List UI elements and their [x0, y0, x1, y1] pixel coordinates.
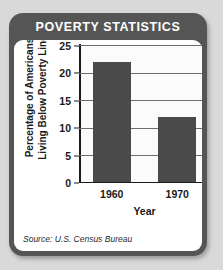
bar-chart: Percentage of Americans Living Below Pov…: [14, 40, 202, 223]
x-tick-label-1960: 1960: [100, 188, 123, 200]
source-note: Source: U.S. Census Bureau: [23, 234, 132, 244]
poverty-statistics-card: POVERTY STATISTICS Percentage of America…: [9, 13, 207, 256]
x-tick-label-1970: 1970: [166, 188, 189, 200]
y-axis-label: Percentage of Americans Living Below Pov…: [24, 40, 49, 168]
bar-1960: [93, 62, 131, 182]
y-tick-label-10: 10: [59, 122, 71, 134]
x-axis-label: Year: [79, 205, 202, 217]
y-axis-label-line-2: Living Below Poverty Line: [36, 40, 49, 168]
y-tick-label-15: 15: [59, 95, 71, 107]
card-header: POVERTY STATISTICS: [14, 13, 202, 40]
y-tick-label-5: 5: [65, 150, 71, 162]
y-tick-label-25: 25: [59, 40, 71, 52]
gridline-25: [79, 45, 202, 46]
x-axis-ticks: 19601970: [79, 188, 202, 202]
page-title: POVERTY STATISTICS: [36, 20, 181, 34]
y-axis-label-line-1: Percentage of Americans: [24, 40, 37, 168]
y-axis-line: [79, 44, 81, 183]
y-tick-label-0: 0: [65, 177, 71, 189]
card-body: Percentage of Americans Living Below Pov…: [14, 40, 202, 251]
y-tick-label-20: 20: [59, 67, 71, 79]
y-axis-ticks: 0510152025: [52, 40, 74, 223]
bar-1970: [158, 117, 196, 182]
plot-area: [79, 44, 202, 183]
x-axis-line: [79, 182, 202, 184]
